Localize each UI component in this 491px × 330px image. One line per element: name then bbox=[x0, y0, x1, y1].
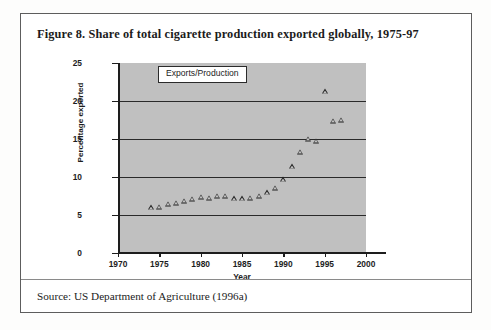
data-point-marker bbox=[214, 194, 220, 199]
x-axis-tick bbox=[201, 252, 202, 257]
y-axis-tick bbox=[112, 101, 118, 102]
x-axis-tick bbox=[242, 252, 243, 257]
y-axis-tick-label: 25 bbox=[73, 58, 82, 68]
data-point-marker bbox=[165, 201, 171, 206]
data-point-marker bbox=[297, 149, 303, 154]
data-point-marker bbox=[247, 195, 253, 200]
data-point-marker bbox=[305, 137, 311, 142]
source-divider bbox=[21, 279, 471, 280]
figure-page: Figure 8. Share of total cigarette produ… bbox=[0, 0, 491, 330]
y-axis-tick bbox=[112, 63, 118, 64]
data-point-marker bbox=[280, 177, 286, 182]
scatter-chart: Percentage exported Year Exports/Product… bbox=[86, 58, 398, 280]
x-axis-tick-label: 1985 bbox=[233, 259, 252, 269]
gridline bbox=[118, 139, 366, 140]
x-axis-tick bbox=[325, 252, 326, 257]
plot-area bbox=[118, 63, 366, 253]
x-axis-tick bbox=[118, 252, 119, 257]
x-axis-tick bbox=[159, 252, 160, 257]
gridline bbox=[118, 177, 366, 178]
gridline bbox=[118, 215, 366, 216]
data-point-marker bbox=[148, 205, 154, 210]
x-axis-tick-label: 1995 bbox=[315, 259, 334, 269]
data-point-marker bbox=[206, 195, 212, 200]
y-axis-tick bbox=[112, 177, 118, 178]
data-point-marker bbox=[156, 204, 162, 209]
page-title: Figure 8. Share of total cigarette produ… bbox=[37, 27, 457, 42]
x-axis-tick bbox=[366, 252, 367, 257]
y-axis-tick bbox=[112, 139, 118, 140]
x-axis-tick-label: 1980 bbox=[191, 259, 210, 269]
gridline bbox=[118, 101, 366, 102]
data-point-marker bbox=[313, 138, 319, 143]
data-point-marker bbox=[239, 196, 245, 201]
x-axis-tick-label: 1975 bbox=[150, 259, 169, 269]
x-axis-tick-label: 1990 bbox=[274, 259, 293, 269]
chart-legend: Exports/Production bbox=[158, 66, 247, 83]
data-point-marker bbox=[173, 200, 179, 205]
y-axis-tick-label: 10 bbox=[73, 172, 82, 182]
data-point-marker bbox=[272, 185, 278, 190]
data-point-marker bbox=[322, 89, 328, 94]
x-axis-line bbox=[118, 252, 386, 254]
x-axis-tick-label: 2000 bbox=[357, 259, 376, 269]
y-axis-tick-label: 0 bbox=[77, 248, 82, 258]
data-point-marker bbox=[198, 194, 204, 199]
y-axis-line bbox=[118, 63, 120, 253]
data-point-marker bbox=[338, 118, 344, 123]
data-point-marker bbox=[256, 194, 262, 199]
y-axis-tick bbox=[112, 215, 118, 216]
data-point-marker bbox=[222, 194, 228, 199]
data-point-marker bbox=[181, 198, 187, 203]
data-point-marker bbox=[330, 118, 336, 123]
x-axis-title: Year bbox=[233, 272, 251, 282]
y-axis-tick-label: 20 bbox=[73, 96, 82, 106]
x-axis-tick bbox=[283, 252, 284, 257]
data-point-marker bbox=[264, 190, 270, 195]
data-point-marker bbox=[189, 197, 195, 202]
y-axis-tick-label: 15 bbox=[73, 134, 82, 144]
data-point-marker bbox=[289, 164, 295, 169]
data-point-marker bbox=[231, 196, 237, 201]
source-note: Source: US Department of Agriculture (19… bbox=[37, 290, 247, 302]
y-axis-title: Percentage exported bbox=[76, 82, 85, 162]
y-axis-tick-label: 5 bbox=[77, 210, 82, 220]
x-axis-tick-label: 1970 bbox=[109, 259, 128, 269]
